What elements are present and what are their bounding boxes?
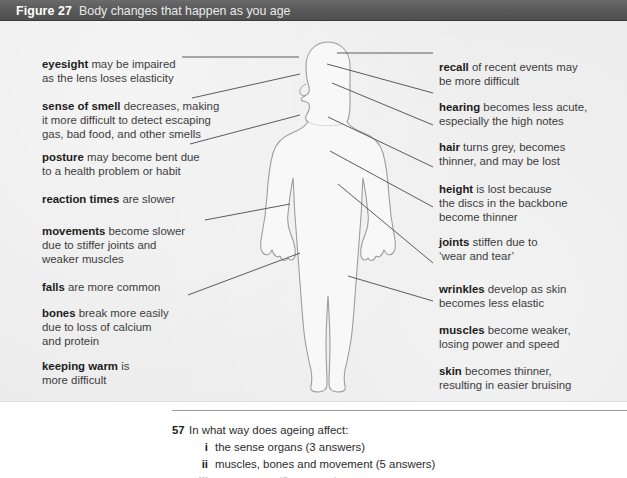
annotation-hair: hair turns grey, becomes thinner, and ma… <box>439 126 624 168</box>
question-number: 57 <box>172 422 189 439</box>
question-item-marker: ii <box>190 456 215 473</box>
question-item-text: muscles, bones and movement (5 answers) <box>215 456 627 473</box>
annotation-posture: posture may become bent due to a health … <box>42 136 257 178</box>
annotation-joints: joints stiffen due to ‘wear and tear’ <box>439 221 624 263</box>
question-block: 57 In what way does ageing affect: i the… <box>172 422 627 478</box>
annotation-term: keeping warm <box>42 360 118 372</box>
annotation-muscles: muscles become weaker, losing power and … <box>439 309 624 351</box>
question-item-text: the sense organs (3 answers) <box>215 439 627 456</box>
annotation-term: muscles <box>439 324 485 336</box>
figure-number: Figure 27 <box>16 4 72 18</box>
annotation-height: height is lost because the discs in the … <box>439 168 624 224</box>
figure-title: Body changes that happen as you age <box>79 4 291 18</box>
annotation-reaction-times: reaction times are slower <box>42 178 257 206</box>
question-stem-text: In what way does ageing affect: <box>189 422 627 439</box>
annotation-term: height <box>439 183 473 195</box>
annotation-term: bones <box>42 307 76 319</box>
annotation-eyesight: eyesight may be impaired as the lens los… <box>42 43 257 85</box>
question-item-iii: iii appearance (3 answers) <box>190 473 627 478</box>
question-item-i: i the sense organs (3 answers) <box>190 439 627 456</box>
question-item-marker: iii <box>190 473 215 478</box>
annotation-wrinkles: wrinkles develop as skin becomes less el… <box>439 268 624 310</box>
annotation-skin: skin becomes thinner, resulting in easie… <box>439 350 624 392</box>
annotation-falls: falls are more common <box>42 266 257 294</box>
annotation-keeping-warm: keeping warm is more difficult <box>42 345 257 387</box>
annotation-term: eyesight <box>42 58 88 70</box>
annotation-movements: movements become slower due to stiffer j… <box>42 210 257 266</box>
annotation-term: skin <box>439 365 462 377</box>
annotation-term: wrinkles <box>439 283 485 295</box>
human-body-silhouette-icon <box>258 38 398 398</box>
annotation-term: sense of smell <box>42 100 121 112</box>
annotation-term: movements <box>42 225 105 237</box>
figure-page: Figure 27 Body changes that happen as yo… <box>0 0 627 478</box>
annotation-term: posture <box>42 151 84 163</box>
figure-panel: eyesight may be impaired as the lens los… <box>0 21 627 402</box>
figure-caption-bar: Figure 27 Body changes that happen as yo… <box>0 0 627 21</box>
question-item-text: appearance (3 answers) <box>215 473 627 478</box>
annotation-term: hearing <box>439 101 480 113</box>
annotation-term: recall <box>439 61 469 73</box>
question-item-marker: i <box>190 439 215 456</box>
question-item-ii: ii muscles, bones and movement (5 answer… <box>190 456 627 473</box>
annotation-term: joints <box>439 236 469 248</box>
annotation-recall: recall of recent events may be more diff… <box>439 46 624 88</box>
question-area: 57 In what way does ageing affect: i the… <box>0 402 627 478</box>
annotation-bones: bones break more easily due to loss of c… <box>42 292 257 348</box>
annotation-sense-of-smell: sense of smell decreases, making it more… <box>42 85 267 141</box>
question-stem: 57 In what way does ageing affect: <box>172 422 627 439</box>
annotation-term: reaction times <box>42 193 119 205</box>
section-divider <box>172 410 627 411</box>
annotation-text: are slower <box>119 193 175 205</box>
figure-caption: Figure 27 Body changes that happen as yo… <box>16 0 291 21</box>
annotation-hearing: hearing becomes less acute, especially t… <box>439 86 624 128</box>
annotation-term: hair <box>439 141 460 153</box>
